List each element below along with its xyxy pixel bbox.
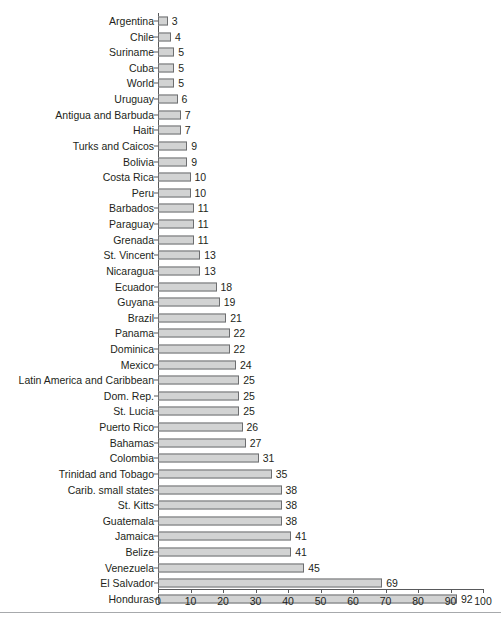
bar-value-label: 27 bbox=[250, 437, 262, 448]
bar-value-label: 26 bbox=[247, 422, 259, 433]
bar-value-label: 4 bbox=[175, 31, 181, 42]
category-label: Costa Rica bbox=[103, 172, 154, 183]
x-axis-tick bbox=[256, 589, 257, 593]
bar-value-label: 5 bbox=[178, 62, 184, 73]
bar-value-label: 45 bbox=[308, 562, 320, 573]
bar-row: Argentina3 bbox=[0, 13, 501, 29]
category-label: Grenada bbox=[113, 234, 154, 245]
bar bbox=[158, 235, 194, 244]
category-label: Uruguay bbox=[114, 94, 154, 105]
bar bbox=[158, 438, 246, 447]
bar-value-label: 21 bbox=[230, 312, 242, 323]
bar bbox=[158, 532, 291, 541]
bar bbox=[158, 251, 200, 260]
bar-row: Colombia31 bbox=[0, 451, 501, 467]
category-label: Suriname bbox=[109, 47, 154, 58]
category-label: Antigua and Barbuda bbox=[55, 109, 154, 120]
bar-row: World5 bbox=[0, 76, 501, 92]
bar bbox=[158, 516, 282, 525]
bar-value-label: 19 bbox=[224, 297, 236, 308]
bar-row: Grenada11 bbox=[0, 232, 501, 248]
bar bbox=[158, 204, 194, 213]
x-axis-tick bbox=[386, 589, 387, 593]
category-label: Haiti bbox=[133, 125, 154, 136]
bar-value-label: 35 bbox=[276, 468, 288, 479]
bar bbox=[158, 454, 259, 463]
bar-value-label: 13 bbox=[204, 265, 216, 276]
bar-row: Turks and Caicos9 bbox=[0, 138, 501, 154]
bar bbox=[158, 313, 226, 322]
bar-value-label: 9 bbox=[191, 140, 197, 151]
bar-row: Latin America and Caribbean25 bbox=[0, 372, 501, 388]
bar-value-label: 41 bbox=[295, 531, 307, 542]
bar bbox=[158, 548, 291, 557]
bar bbox=[158, 95, 178, 104]
category-label: Turks and Caicos bbox=[73, 140, 154, 151]
bar-value-label: 11 bbox=[198, 219, 209, 230]
bar-row: Panama22 bbox=[0, 326, 501, 342]
category-label: Guatemala bbox=[103, 515, 154, 526]
bar bbox=[158, 376, 239, 385]
bar-value-label: 25 bbox=[243, 375, 255, 386]
bar bbox=[158, 48, 174, 57]
bar-row: Antigua and Barbuda7 bbox=[0, 107, 501, 123]
bar-row: Trinidad and Tobago35 bbox=[0, 466, 501, 482]
bar bbox=[158, 360, 236, 369]
bar-value-label: 3 bbox=[172, 15, 178, 26]
bar-row: Haiti7 bbox=[0, 123, 501, 139]
bar-value-label: 22 bbox=[234, 328, 246, 339]
x-axis-tick bbox=[191, 589, 192, 593]
bar bbox=[158, 579, 382, 588]
category-label: El Salvador bbox=[100, 578, 154, 589]
category-label: Nicaragua bbox=[106, 265, 154, 276]
category-label: Latin America and Caribbean bbox=[19, 375, 154, 386]
bar-value-label: 38 bbox=[286, 484, 298, 495]
bar bbox=[158, 329, 230, 338]
bar-row: Cuba5 bbox=[0, 60, 501, 76]
bar-row: Peru10 bbox=[0, 185, 501, 201]
bottom-divider bbox=[0, 612, 501, 613]
bar-value-label: 38 bbox=[286, 500, 298, 511]
category-label: Mexico bbox=[121, 359, 154, 370]
bar-value-label: 25 bbox=[243, 406, 255, 417]
bar bbox=[158, 126, 181, 135]
category-label: Dominica bbox=[110, 344, 154, 355]
bar-row: Suriname5 bbox=[0, 44, 501, 60]
bar-row: Costa Rica10 bbox=[0, 169, 501, 185]
category-label: Bahamas bbox=[110, 437, 154, 448]
bar bbox=[158, 141, 187, 150]
bar bbox=[158, 501, 282, 510]
category-label: Carib. small states bbox=[68, 484, 154, 495]
bar-value-label: 13 bbox=[204, 250, 216, 261]
category-label: World bbox=[127, 78, 154, 89]
category-label: St. Kitts bbox=[118, 500, 154, 511]
category-label: Bolivia bbox=[123, 156, 154, 167]
category-label: Belize bbox=[125, 547, 154, 558]
category-label: Puerto Rico bbox=[99, 422, 154, 433]
x-axis-tick bbox=[451, 589, 452, 593]
x-axis-tick bbox=[223, 589, 224, 593]
bar-row: St. Lucia25 bbox=[0, 404, 501, 420]
bar bbox=[158, 469, 272, 478]
x-axis-tick bbox=[288, 589, 289, 593]
category-label: Trinidad and Tobago bbox=[59, 468, 154, 479]
bar-value-label: 22 bbox=[234, 344, 246, 355]
bar-value-label: 7 bbox=[185, 109, 191, 120]
x-axis-tick-label: 100 bbox=[463, 595, 501, 607]
bar-row: Barbados11 bbox=[0, 201, 501, 217]
bar-value-label: 69 bbox=[386, 578, 398, 589]
bar bbox=[158, 110, 181, 119]
category-label: Barbados bbox=[109, 203, 154, 214]
bar-value-label: 10 bbox=[195, 187, 207, 198]
bar-row: Belize41 bbox=[0, 544, 501, 560]
bar-row: Venezuela45 bbox=[0, 560, 501, 576]
bar bbox=[158, 407, 239, 416]
bar bbox=[158, 345, 230, 354]
bar-row: Nicaragua13 bbox=[0, 263, 501, 279]
bar bbox=[158, 16, 168, 25]
bar-value-label: 6 bbox=[182, 94, 188, 105]
bar bbox=[158, 188, 191, 197]
bar bbox=[158, 79, 174, 88]
category-label: Peru bbox=[132, 187, 154, 198]
category-label: Paraguay bbox=[109, 219, 154, 230]
